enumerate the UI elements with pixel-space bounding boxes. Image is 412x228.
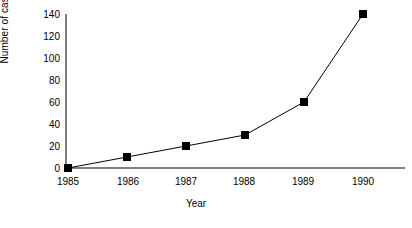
- data-point-marker: [123, 153, 131, 161]
- plot-area: [0, 0, 412, 228]
- data-markers: [64, 10, 367, 172]
- data-point-marker: [359, 10, 367, 18]
- data-point-marker: [241, 131, 249, 139]
- data-point-marker: [300, 98, 308, 106]
- data-point-marker: [182, 142, 190, 150]
- data-line: [68, 14, 363, 168]
- data-point-marker: [64, 164, 72, 172]
- line-chart: Number of cases 140 120 100 80 60 40 20 …: [0, 0, 412, 228]
